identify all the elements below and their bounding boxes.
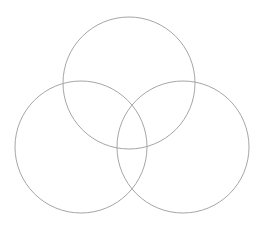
venn-circle-top xyxy=(63,17,195,149)
venn-circle-left xyxy=(15,81,147,213)
venn-diagram xyxy=(0,0,267,236)
venn-circle-right xyxy=(117,81,249,213)
